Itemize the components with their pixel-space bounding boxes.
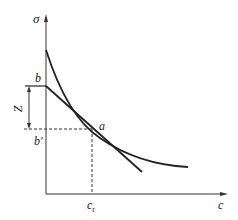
diagram-canvas: σ c b b′ a Z cr (0, 0, 238, 220)
z-arrow-down-icon (27, 123, 31, 129)
y-axis-label: σ (33, 13, 39, 25)
z-arrow-up-icon (27, 86, 31, 92)
z-label: Z (12, 106, 24, 113)
point-b-prime-label: b′ (34, 135, 43, 147)
cr-label-sub: r (92, 205, 95, 214)
cr-label: cr (87, 199, 95, 216)
y-axis-arrow-icon (44, 14, 48, 22)
x-axis-arrow-icon (220, 192, 228, 196)
diagram-svg (0, 0, 238, 220)
x-axis-label: c (218, 199, 223, 211)
point-b-label: b (35, 72, 41, 84)
point-a-label: a (99, 120, 105, 132)
